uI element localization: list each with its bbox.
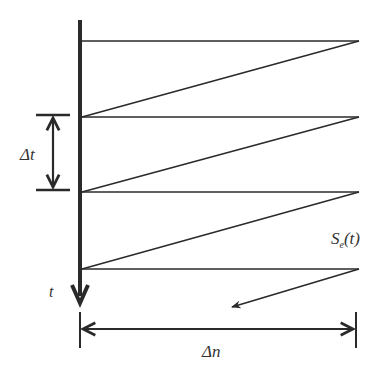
delta-t-label: Δt <box>19 145 36 164</box>
time-axis-label: t <box>49 283 54 300</box>
sawtooth-diagram: Δt t Δn Se(t) <box>0 0 377 373</box>
delta-t-dimension <box>36 115 70 190</box>
retrace-line-2 <box>82 117 359 192</box>
retrace-line-3 <box>82 192 359 269</box>
sawtooth-lines <box>82 41 359 307</box>
time-axis <box>72 20 88 303</box>
continuation-arrow <box>232 269 359 307</box>
signal-label: Se(t) <box>331 229 360 250</box>
delta-n-label: Δn <box>201 342 220 361</box>
signal-label-arg: (t) <box>344 229 360 248</box>
retrace-line-1 <box>82 41 359 117</box>
